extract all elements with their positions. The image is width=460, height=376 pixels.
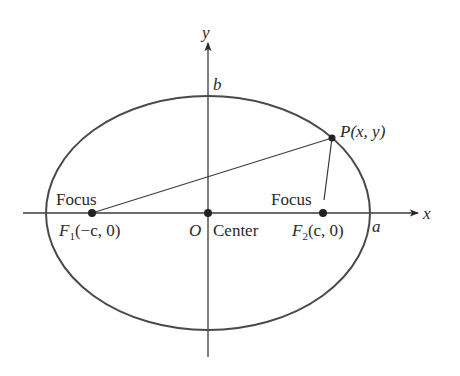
point-p-dot (329, 135, 336, 142)
ellipse-diagram: y x b a Focus Focus O Center F1(−c, 0) F… (0, 0, 460, 376)
x-axis-label: x (422, 204, 431, 223)
focus-left-label: Focus (56, 190, 97, 209)
origin-label: O (189, 221, 201, 240)
point-p-label: P(x, y) (339, 122, 386, 141)
focus-f2-dot (319, 209, 327, 217)
segment-f2-p (324, 138, 332, 200)
focus-f1-dot (88, 209, 96, 217)
semi-major-label-a: a (372, 217, 381, 236)
focus-right-label: Focus (271, 190, 312, 209)
semi-minor-label-b: b (213, 75, 222, 94)
focus-f1-label: F1(−c, 0) (58, 221, 120, 242)
focus-f2-label: F2(c, 0) (291, 221, 344, 242)
center-label: Center (213, 221, 259, 240)
origin-dot (204, 209, 212, 217)
y-axis-label: y (200, 23, 210, 42)
